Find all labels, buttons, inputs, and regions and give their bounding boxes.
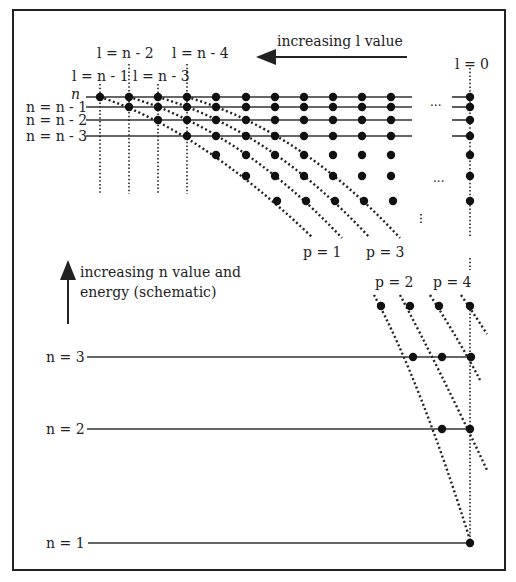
- caption-line1: increasing n value and: [80, 265, 241, 279]
- label-l-n-minus-4: l = n - 4: [172, 46, 229, 60]
- label-p4: p = 4: [433, 275, 472, 289]
- label-l-n-minus-3: l = n - 3: [133, 69, 190, 83]
- ellipsis-mid: ...: [433, 172, 444, 184]
- label-l-zero: l = 0: [455, 57, 489, 71]
- level-label-n3: n = 3: [46, 350, 85, 364]
- sublevel-rows: [86, 97, 471, 136]
- label-l-n-minus-2: l = n - 2: [97, 46, 154, 60]
- label-p1: p = 1: [303, 245, 342, 259]
- ellipsis-row: ...: [430, 96, 441, 108]
- label-p2: p = 2: [375, 275, 414, 289]
- level-label-n1: n = 1: [46, 536, 85, 550]
- level-label-n2: n = 2: [46, 422, 85, 436]
- label-increasing-l: increasing l value: [277, 34, 403, 48]
- row-label-n-minus-2: n = n - 2: [26, 113, 87, 127]
- row-label-n-minus-3: n = n - 3: [26, 129, 87, 143]
- label-p3: p = 3: [366, 245, 405, 259]
- label-l-n-minus-1: l = n - 1: [72, 69, 129, 83]
- caption-line2: energy (schematic): [80, 285, 216, 299]
- p-curves-top: [100, 97, 400, 238]
- energy-levels: [87, 357, 471, 543]
